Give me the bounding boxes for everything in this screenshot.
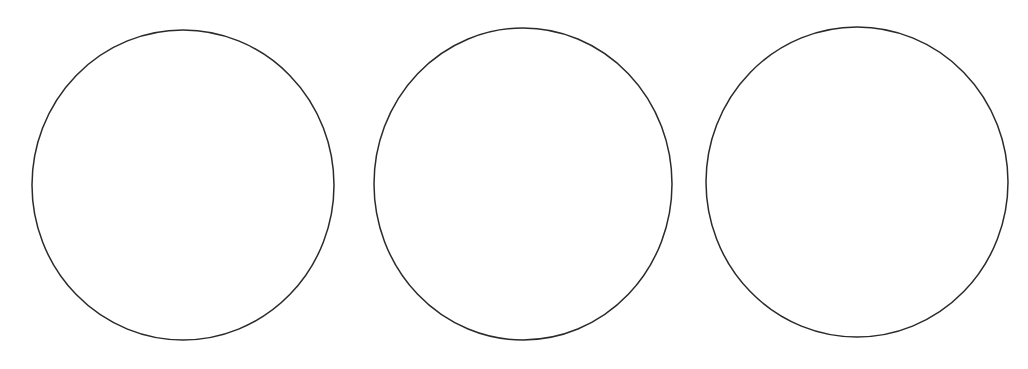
diagram-canvas (0, 0, 1028, 369)
circle-1 (32, 30, 334, 340)
circle-2 (374, 28, 672, 340)
circle-3 (706, 27, 1008, 337)
